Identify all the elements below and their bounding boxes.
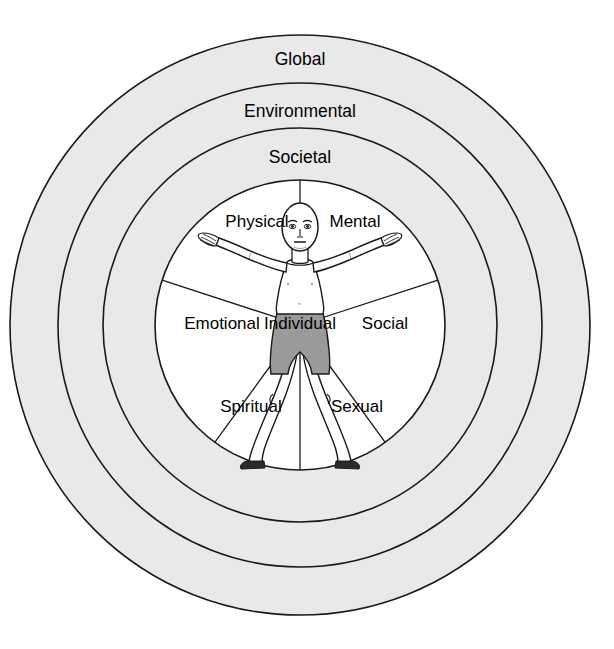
figure-foot-left: [240, 461, 265, 469]
figure-chest-hint-left: [287, 283, 289, 285]
figure-foot-right: [335, 461, 360, 469]
concentric-diagram: Global Environmental Societal Physical M…: [0, 0, 614, 649]
sector-label-sexual: Sexual: [331, 397, 383, 416]
ring-label-environmental: Environmental: [244, 101, 356, 121]
figure-pupil-right: [306, 225, 309, 228]
sector-label-spiritual: Spiritual: [220, 397, 281, 416]
center-label-individual: Individual: [264, 314, 336, 333]
ring-label-global: Global: [275, 49, 326, 69]
figure-chest-hint-right: [311, 283, 313, 285]
sector-label-physical: Physical: [225, 212, 288, 231]
sector-label-mental: Mental: [329, 212, 380, 231]
diagram-root: Global Environmental Societal Physical M…: [0, 0, 614, 649]
figure-pupil-left: [291, 225, 294, 228]
sector-label-social: Social: [362, 314, 408, 333]
ring-label-societal: Societal: [269, 147, 331, 167]
sector-label-emotional: Emotional: [184, 314, 260, 333]
